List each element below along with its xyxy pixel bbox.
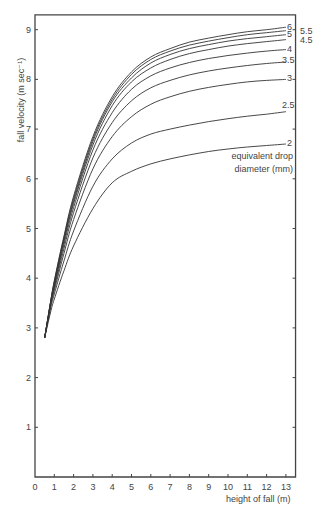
- curve-diameter-4-5: [45, 40, 286, 338]
- y-tick-label: 3: [26, 323, 31, 333]
- curve-diameter-5: [45, 35, 286, 338]
- legend-title-line2: diameter (mm): [234, 164, 293, 174]
- y-tick-label: 9: [26, 25, 31, 35]
- y-tick-label: 6: [26, 174, 31, 184]
- y-tick-label: 1: [26, 422, 31, 432]
- x-tick-label: 12: [262, 482, 272, 492]
- series-labels: 65.554.543.532.52: [282, 22, 313, 148]
- x-tick-label: 6: [148, 482, 153, 492]
- curve-diameter-6: [45, 27, 286, 338]
- x-tick-label: 10: [223, 482, 233, 492]
- legend-title-line1: equivalent drop: [231, 151, 293, 161]
- series-label: 3.5: [282, 55, 295, 65]
- x-tick-label: 0: [32, 482, 37, 492]
- y-tick-label: 7: [26, 124, 31, 134]
- y-tick-label: 2: [26, 373, 31, 383]
- x-tick-label: 9: [206, 482, 211, 492]
- x-tick-label: 2: [71, 482, 76, 492]
- series-label: 4.5: [300, 35, 313, 45]
- y-tick-label: 4: [26, 273, 31, 283]
- curve-diameter-2-5: [45, 112, 286, 338]
- fall-velocity-chart: 012345678910111213 123456789 65.554.543.…: [0, 0, 327, 515]
- velocity-curves: [45, 27, 286, 338]
- x-tick-label: 11: [243, 482, 252, 492]
- series-label: 3: [287, 73, 292, 83]
- series-label: 4: [287, 44, 292, 54]
- x-tick-label: 1: [52, 482, 57, 492]
- series-label: 2: [287, 138, 292, 148]
- x-tick-label: 3: [90, 482, 95, 492]
- y-tick-label: 8: [26, 74, 31, 84]
- y-axis-title: fall velocity (m sec⁻¹): [16, 58, 26, 143]
- series-label: 2.5: [282, 100, 295, 110]
- curve-diameter-3: [45, 79, 286, 337]
- x-tick-label: 5: [129, 482, 134, 492]
- x-tick-label: 8: [187, 482, 192, 492]
- series-label: 5: [287, 29, 292, 39]
- x-tick-label: 4: [110, 482, 115, 492]
- curve-diameter-4: [45, 50, 286, 338]
- x-axis-title: height of fall (m): [226, 494, 291, 504]
- x-tick-label: 7: [168, 482, 173, 492]
- y-tick-label: 5: [26, 224, 31, 234]
- x-tick-label: 13: [281, 482, 291, 492]
